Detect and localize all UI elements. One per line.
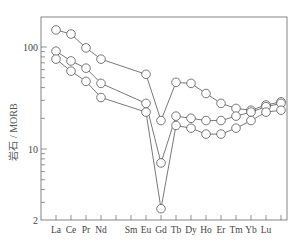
- data-point-marker: [202, 130, 211, 139]
- data-point-marker: [142, 99, 151, 108]
- data-point-marker: [82, 77, 91, 86]
- data-point-marker: [52, 47, 61, 56]
- data-point-marker: [262, 108, 271, 117]
- data-point-marker: [187, 79, 196, 88]
- data-point-marker: [202, 89, 211, 98]
- data-point-marker: [247, 116, 256, 125]
- y-tick-label: 2: [33, 215, 38, 226]
- data-point-marker: [157, 159, 166, 168]
- series-line: [56, 30, 281, 121]
- data-point-marker: [142, 70, 151, 79]
- data-point-marker: [97, 93, 106, 102]
- data-point-marker: [217, 99, 226, 108]
- x-tick-label: Eu: [141, 225, 152, 235]
- y-tick-label: 10: [28, 144, 38, 155]
- data-point-marker: [217, 130, 226, 139]
- x-tick-label: Tb: [171, 225, 182, 235]
- data-point-marker: [232, 124, 241, 133]
- y-axis-label-container: 岩石 / MORB: [4, 0, 20, 246]
- x-tick-label: Er: [217, 225, 227, 235]
- x-tick-label: Ce: [66, 225, 77, 235]
- data-point-marker: [157, 204, 166, 213]
- data-point-marker: [97, 55, 106, 64]
- data-point-marker: [217, 116, 226, 125]
- x-tick-label: Nd: [95, 225, 107, 235]
- x-tick-label: Ho: [200, 225, 212, 235]
- data-point-marker: [52, 26, 61, 35]
- data-point-marker: [172, 121, 181, 130]
- x-tick-label: Gd: [155, 225, 167, 235]
- x-tick-label: Tm: [229, 225, 243, 235]
- x-tick-label: Lu: [261, 225, 272, 235]
- data-point-marker: [82, 44, 91, 53]
- data-point-marker: [187, 124, 196, 133]
- ree-spider-diagram: 210100 LaCePrNdSmEuGdTbDyHoErTmYbLu: [0, 0, 301, 246]
- data-point-marker: [67, 57, 76, 66]
- data-point-marker: [67, 67, 76, 76]
- data-point-marker: [247, 108, 256, 117]
- data-point-marker: [82, 64, 91, 73]
- x-tick-label: Yb: [245, 225, 257, 235]
- x-tick-label: Sm: [125, 225, 138, 235]
- y-axis: 210100: [23, 42, 47, 226]
- x-axis: LaCePrNdSmEuGdTbDyHoErTmYbLu: [51, 215, 281, 235]
- data-point-marker: [157, 116, 166, 125]
- data-point-marker: [232, 104, 241, 113]
- y-axis-label: 岩石 / MORB: [5, 103, 20, 160]
- data-point-marker: [187, 114, 196, 123]
- series-sample-3: [52, 55, 286, 213]
- data-series: [52, 26, 286, 213]
- data-point-marker: [142, 108, 151, 117]
- x-tick-label: Dy: [185, 225, 197, 235]
- data-point-marker: [67, 30, 76, 39]
- x-tick-label: Pr: [82, 225, 91, 235]
- data-point-marker: [52, 55, 61, 64]
- data-point-marker: [172, 112, 181, 121]
- data-point-marker: [277, 106, 286, 115]
- data-point-marker: [172, 78, 181, 87]
- data-point-marker: [232, 112, 241, 121]
- data-point-marker: [202, 116, 211, 125]
- x-tick-label: La: [51, 225, 62, 235]
- y-tick-label: 100: [23, 42, 38, 53]
- data-point-marker: [97, 79, 106, 88]
